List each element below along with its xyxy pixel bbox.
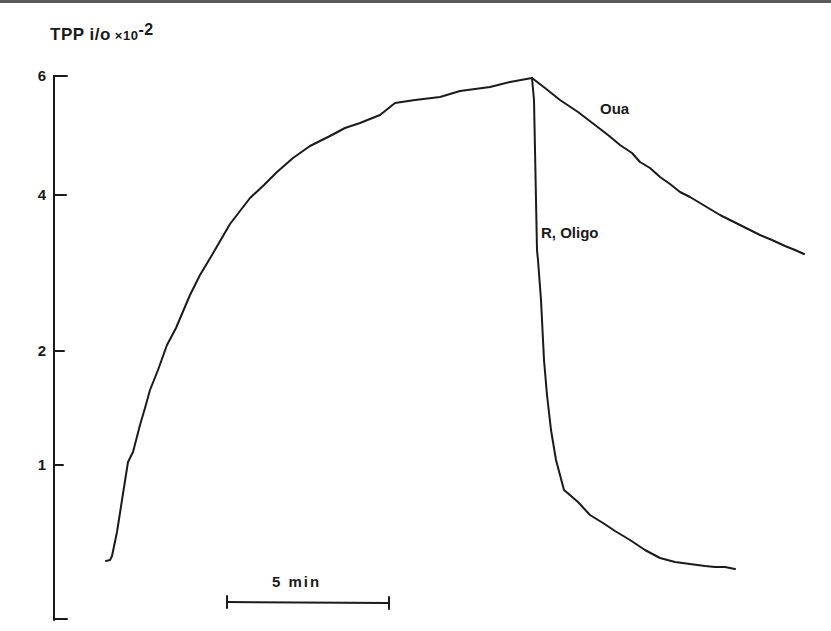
chart-plot bbox=[0, 0, 831, 631]
scale-bar-label: 5 min bbox=[272, 573, 321, 590]
series-oligo-line bbox=[532, 78, 735, 569]
series-uptake-line bbox=[106, 78, 532, 561]
scale-bar-line bbox=[227, 602, 389, 603]
annotation-oua: Oua bbox=[600, 100, 629, 117]
annotation-r-oligo: R, Oligo bbox=[541, 224, 599, 241]
